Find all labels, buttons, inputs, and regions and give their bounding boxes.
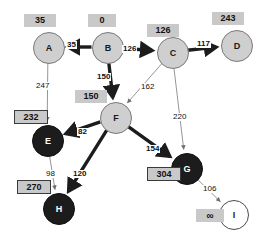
graph-node-d[interactable]: D [221,30,253,62]
edge-weight-c-d: 117 [196,40,211,48]
graph-node-e[interactable]: E [32,125,64,157]
distance-label-d: 243 [212,12,244,25]
graph-node-c[interactable]: C [157,37,189,69]
edge-weight-a-e: 247 [35,82,50,90]
edge-weight-c-f: 162 [140,83,155,91]
distance-value: 304 [156,170,171,179]
edge-f-h [69,130,107,191]
distance-label-i: ∞ [196,209,224,222]
distance-label-a: 35 [24,14,56,27]
node-label: G [183,165,190,174]
edge-weight-g-i: 106 [202,185,217,193]
edge-weight-f-g: 154 [145,145,160,153]
graph-node-b[interactable]: B [92,32,124,64]
edge-weight-b-c: 126 [122,45,137,53]
edge-weight-b-f: 150 [96,73,111,81]
graph-node-h[interactable]: H [43,193,75,225]
node-label: A [46,44,53,53]
edge-weight-f-e: 82 [77,128,88,136]
distance-label-f: 150 [75,90,107,103]
distance-label-b: 0 [88,14,116,27]
edge-c-g [174,67,184,149]
distance-value: 243 [220,14,235,23]
distance-label-h: 270 [17,180,51,194]
distance-value: ∞ [206,211,213,221]
distance-value: 35 [35,16,45,25]
distance-label-e: 232 [14,110,48,124]
edge-weight-f-h: 120 [72,170,87,178]
distance-value: 0 [99,16,104,25]
distance-value: 150 [83,92,98,101]
edge-weight-c-g: 220 [172,113,187,121]
distance-value: 232 [23,113,38,122]
edge-weight-e-h: 98 [45,170,56,178]
graph-diagram: ABCDEFGHI 350126243232150304270∞ 3512611… [0,0,266,239]
edge-weight-b-a: 35 [66,41,77,49]
distance-label-c: 126 [147,24,179,37]
node-label: F [113,114,119,123]
node-label: B [105,44,112,53]
node-label: C [170,49,177,58]
node-label: D [234,42,241,51]
graph-node-a[interactable]: A [33,32,65,64]
distance-value: 270 [26,183,41,192]
node-label: E [45,137,51,146]
distance-label-g: 304 [147,167,181,181]
distance-value: 126 [155,26,170,35]
node-label: I [233,211,236,220]
graph-node-f[interactable]: F [100,102,132,134]
node-label: H [56,205,63,214]
